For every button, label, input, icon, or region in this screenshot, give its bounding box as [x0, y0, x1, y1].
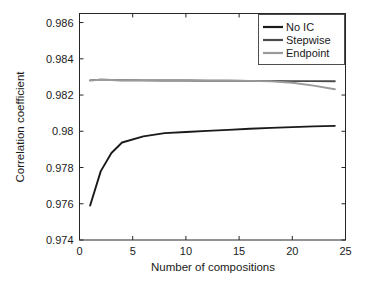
x-tick-label: 0: [76, 245, 82, 257]
legend-label-endpoint: Endpoint: [286, 47, 329, 59]
y-tick-label: 0.974: [46, 234, 74, 246]
y-tick-label: 0.976: [46, 198, 74, 210]
correlation-coefficient-line-chart: 0.9740.9760.9780.980.9820.9840.986 05101…: [0, 0, 370, 283]
legend-label-stepwise: Stepwise: [286, 34, 331, 46]
y-tick-label: 0.984: [46, 53, 74, 65]
chart-legend: No IC Stepwise Endpoint: [259, 15, 345, 65]
x-tick-label: 15: [233, 245, 245, 257]
chart-figure: 0.9740.9760.9780.980.9820.9840.986 05101…: [0, 0, 370, 283]
x-axis-title: Number of compositions: [151, 261, 275, 273]
x-tick-label: 20: [286, 245, 298, 257]
y-axis-title: Correlation coefficient: [14, 71, 26, 183]
y-tick-label: 0.98: [52, 125, 73, 137]
x-tick-label: 5: [130, 245, 136, 257]
y-tick-label: 0.982: [46, 89, 74, 101]
x-tick-label: 10: [180, 245, 192, 257]
y-tick-label: 0.986: [46, 17, 74, 29]
legend-label-no-ic: No IC: [286, 21, 314, 33]
y-tick-label: 0.978: [46, 162, 74, 174]
x-tick-label: 25: [339, 245, 351, 257]
